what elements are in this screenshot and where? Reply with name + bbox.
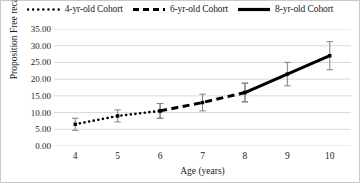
legend-swatch-solid-icon bbox=[237, 5, 271, 14]
legend-item-2: 8-yr-old Cohort bbox=[237, 3, 333, 15]
x-axis-title: Age (years) bbox=[54, 165, 351, 177]
y-tick-label: 20.00 bbox=[15, 75, 51, 84]
x-tick-label: 8 bbox=[233, 150, 257, 162]
x-tick-label: 9 bbox=[275, 150, 299, 162]
data-point bbox=[328, 54, 331, 57]
data-point bbox=[201, 101, 204, 104]
legend-label-2: 8-yr-old Cohort bbox=[275, 3, 333, 15]
y-tick-label: 5.00 bbox=[15, 125, 51, 134]
y-tick-label: 35.00 bbox=[15, 25, 51, 34]
legend-swatch-dotted-icon bbox=[27, 5, 61, 14]
x-tick-label: 6 bbox=[148, 150, 172, 162]
data-point bbox=[116, 114, 119, 117]
y-axis-ticks: 0.005.0010.0015.0020.0025.0030.0035.00 bbox=[15, 29, 51, 146]
y-tick-label: 30.00 bbox=[15, 41, 51, 50]
y-tick-label: 25.00 bbox=[15, 58, 51, 67]
x-tick-label: 7 bbox=[191, 150, 215, 162]
legend-label-0: 4-yr-old Cohort bbox=[65, 3, 123, 15]
x-tick-label: 5 bbox=[106, 150, 130, 162]
y-tick-label: 15.00 bbox=[15, 91, 51, 100]
x-axis-ticks: 45678910 bbox=[54, 150, 351, 162]
y-tick-label: 0.00 bbox=[15, 142, 51, 151]
data-point bbox=[158, 109, 161, 112]
y-tick-label: 10.00 bbox=[15, 108, 51, 117]
legend-item-1: 6-yr-old Cohort bbox=[132, 3, 228, 15]
chart-legend: 4-yr-old Cohort 6-yr-old Cohort 8-yr-old… bbox=[1, 3, 359, 15]
legend-label-1: 6-yr-old Cohort bbox=[170, 3, 228, 15]
x-tick-label: 4 bbox=[63, 150, 87, 162]
x-tick-label: 10 bbox=[318, 150, 342, 162]
legend-item-0: 4-yr-old Cohort bbox=[27, 3, 123, 15]
plot-area bbox=[54, 29, 351, 146]
data-point bbox=[286, 72, 289, 75]
series-0 bbox=[72, 104, 163, 131]
data-point bbox=[74, 123, 77, 126]
data-point bbox=[243, 91, 246, 94]
legend-swatch-dashed-icon bbox=[132, 5, 166, 14]
chart-figure: 4-yr-old Cohort 6-yr-old Cohort 8-yr-old… bbox=[0, 0, 360, 183]
series-2 bbox=[242, 42, 333, 102]
